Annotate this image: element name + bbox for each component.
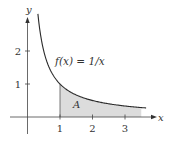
x-axis-label: x: [158, 112, 164, 123]
y-tick-label: 1: [15, 79, 21, 90]
y-axis-label: y: [25, 4, 32, 15]
region-label-A: A: [72, 99, 80, 110]
function-label: f(x) = 1/x: [54, 55, 105, 67]
x-axis-arrow-icon: [151, 115, 157, 119]
x-tick-label: 2: [89, 123, 95, 134]
x-tick-label: 3: [122, 123, 128, 134]
area-under-curve-plot: 123 12 x y f(x) = 1/x A: [0, 0, 171, 142]
x-ticks: 123: [57, 115, 128, 135]
x-tick-label: 1: [57, 123, 63, 134]
y-axis-arrow-icon: [25, 17, 29, 23]
y-tick-label: 2: [15, 46, 21, 57]
